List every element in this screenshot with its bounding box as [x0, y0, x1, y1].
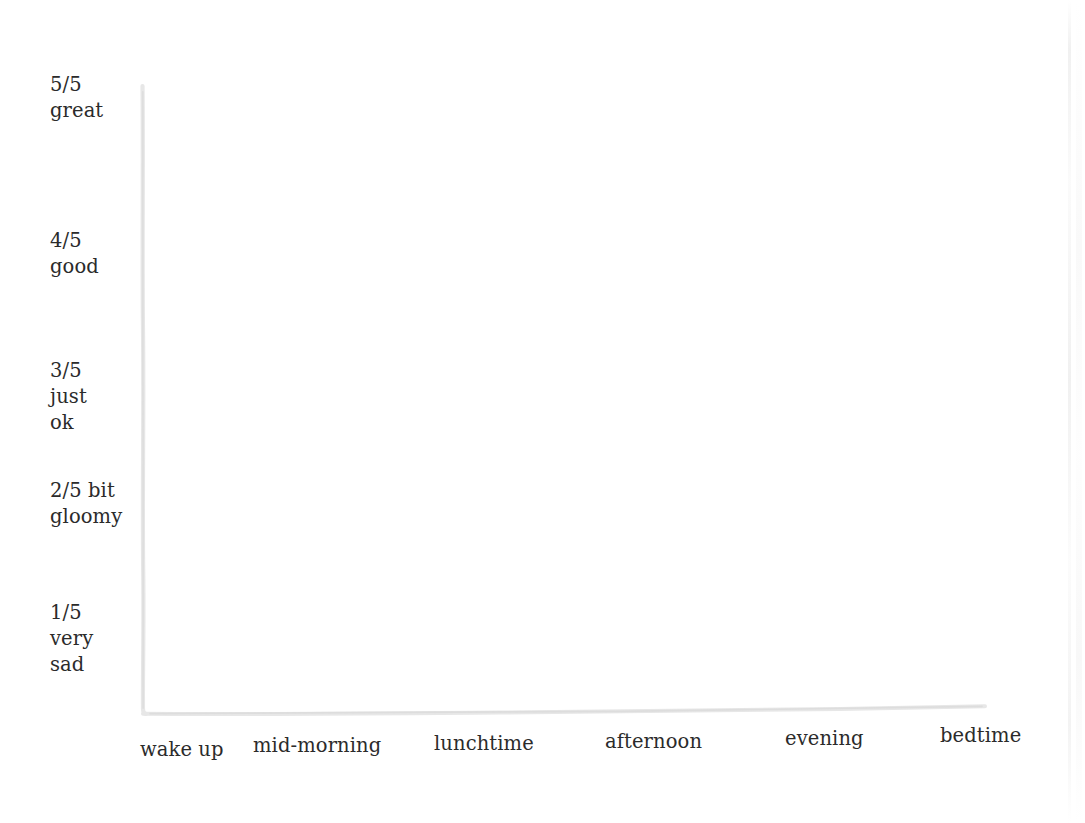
y-tick-label-5: 5/5 great: [50, 72, 103, 124]
y-tick-label-3: 3/5 just ok: [50, 358, 87, 436]
y-axis-line: [143, 86, 147, 714]
x-tick-label-lunchtime: lunchtime: [434, 732, 534, 756]
x-tick-label-wake-up: wake up: [140, 738, 224, 762]
x-tick-label-evening: evening: [785, 727, 864, 751]
paper-edge-artifact-secondary: [1076, 0, 1082, 823]
x-tick-label-bedtime: bedtime: [940, 724, 1021, 748]
y-tick-label-2: 2/5 bit gloomy: [50, 478, 122, 530]
chart-page: 5/5 great 4/5 good 3/5 just ok 2/5 bit g…: [0, 0, 1085, 823]
x-tick-label-afternoon: afternoon: [605, 730, 702, 754]
x-tick-label-mid-morning: mid-morning: [253, 734, 381, 758]
y-tick-label-4: 4/5 good: [50, 228, 99, 280]
plot-area[interactable]: [147, 86, 985, 712]
y-tick-label-1: 1/5 very sad: [50, 600, 93, 678]
paper-edge-artifact: [1068, 0, 1071, 823]
y-axis-line-core: [143, 92, 144, 708]
